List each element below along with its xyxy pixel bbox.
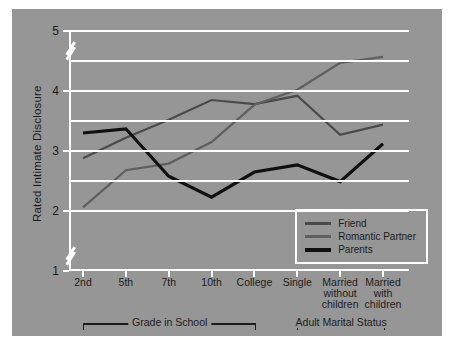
x-tick-label-line: 2nd [74,277,92,288]
x-tick-label: 10th [201,277,221,288]
x-tick-label-line: 7th [161,277,176,288]
y-tick-label: 2 [52,204,59,218]
legend-label: Friend [338,218,366,229]
axis-break-mark [62,44,79,58]
legend-swatch [305,222,331,225]
x-tick-label-line: children [365,299,402,310]
x-tick-label-line: 5th [119,277,134,288]
legend-item: Romantic Partner [305,230,416,243]
x-tick-label: 7th [161,277,176,288]
gridline [69,90,409,92]
x-tick-label: Marriedwithoutchildren [322,277,359,310]
y-tick-label: 3 [52,144,59,158]
y-axis-title: Rated Intimate Disclosure [28,59,46,249]
x-tick-label-line: children [322,299,359,310]
legend-label: Romantic Partner [338,231,416,242]
group-brackets: Grade in SchoolAdult Marital Status [69,323,409,343]
x-tick-label: Single [283,277,312,288]
axis-break-mark [62,249,79,263]
gridline [69,180,409,182]
x-tick-label-line: 10th [201,277,221,288]
gridline [69,30,409,32]
y-tick [63,90,69,92]
y-tick-label: 1 [52,264,59,278]
gridline [69,120,409,122]
group-bracket: Adult Marital Status [297,323,385,330]
x-tick-label-line: College [237,277,273,288]
x-tick-label: Marriedwithchildren [365,277,402,310]
legend-item: Friend [305,217,416,230]
gridline [69,60,409,62]
legend-swatch [305,248,331,252]
chart-legend: FriendRomantic PartnerParents [295,209,428,264]
legend-item: Parents [305,243,416,256]
legend-swatch [305,235,331,238]
x-tick-label: 2nd [74,277,92,288]
legend-label: Parents [338,244,372,255]
gridline [69,150,409,152]
x-tick-label: 5th [119,277,134,288]
series-line-friend [83,96,383,158]
group-bracket-label: Grade in School [128,316,211,328]
series-line-parents [83,129,383,197]
y-tick-label: 4 [52,84,59,98]
y-tick-label: 5 [52,24,59,38]
group-bracket: Grade in School [83,323,256,330]
chart-figure: Rated Intimate Disclosure 12345 2nd5th7t… [12,9,442,336]
x-tick-label-line: Single [283,277,312,288]
y-tick [63,30,69,32]
x-tick-label: College [237,277,273,288]
y-tick [63,210,69,212]
group-bracket-label: Adult Marital Status [292,316,391,328]
y-tick [63,150,69,152]
